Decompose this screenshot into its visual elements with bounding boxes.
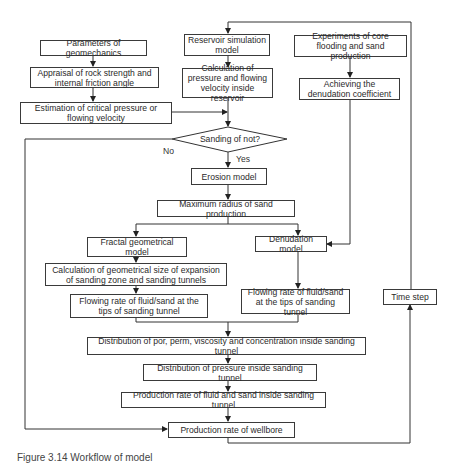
- decision-sanding-or-not: Sanding of not?: [190, 134, 270, 144]
- node-appraisal-rock-strength: Appraisal of rock strength and internal …: [30, 67, 159, 88]
- node-parameters-of-geomechanics: Parameters of geomechanics: [40, 40, 147, 56]
- edge-label-no: No: [163, 146, 174, 156]
- node-fractal-geometrical-model: Fractal geometrical model: [87, 237, 187, 257]
- node-experiments-core-flooding: Experiments of core flooding and sand pr…: [294, 35, 407, 57]
- node-achieving-denudation-coefficient: Achieving the denudation coefficient: [299, 78, 400, 100]
- node-calculation-of-pressure: Calculation of pressure and flowing velo…: [182, 68, 273, 98]
- node-calculation-geometrical-size: Calculation of geometrical size of expan…: [45, 263, 227, 286]
- node-flowing-rate-right: Flowing rate of fluid/sand at the tips o…: [241, 289, 350, 314]
- node-production-rate-tunnel: Production rate of fluid and sand inside…: [121, 392, 326, 408]
- node-erosion-model: Erosion model: [191, 168, 267, 185]
- node-distribution-por-perm: Distribution of por, perm, viscosity and…: [87, 337, 366, 355]
- node-distribution-pressure: Distribution of pressure inside sanding …: [143, 364, 317, 381]
- node-denudation-model: Denudation model: [255, 236, 327, 252]
- node-time-step: Time step: [383, 289, 437, 305]
- edge-label-yes: Yes: [236, 154, 250, 164]
- node-production-rate-wellbore: Production rate of wellbore: [168, 422, 295, 438]
- figure-caption: Figure 3.14 Workflow of model: [17, 452, 152, 463]
- node-flowing-rate-left: Flowing rate of fluid/sand at the tips o…: [70, 294, 208, 318]
- node-maximum-radius-sand-production: Maximum radius of sand production: [157, 200, 295, 217]
- node-reservoir-simulation-model: Reservoir simulation model: [184, 34, 270, 56]
- node-estimation-critical-pressure: Estimation of critical pressure or flowi…: [20, 102, 172, 124]
